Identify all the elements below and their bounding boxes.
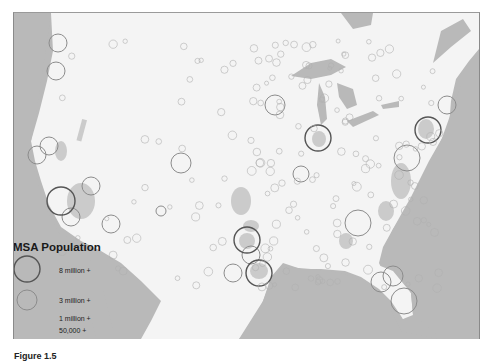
legend-circle-8m — [14, 256, 40, 282]
legend-label-50k: 50,000 + — [59, 327, 86, 334]
legend-label-3m: 3 million + — [59, 297, 91, 304]
figure-caption: Figure 1.5 — [14, 351, 57, 361]
legend-title: MSA Population — [13, 241, 101, 253]
msa-population-map: MSA Population 8 million + 3 million + 1… — [13, 12, 480, 339]
legend-circles — [13, 255, 53, 315]
legend-label-1m: 1 million + — [59, 315, 91, 322]
msa-circle-small — [119, 267, 127, 275]
legend-label-8m: 8 million + — [59, 267, 91, 274]
legend-circle-3m — [17, 290, 37, 310]
us-map-svg — [14, 13, 479, 339]
